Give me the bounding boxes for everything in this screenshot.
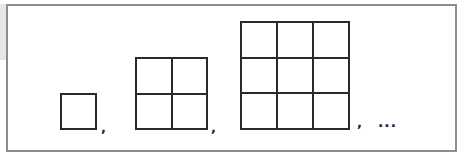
comma-separator: , <box>211 121 216 134</box>
comma-separator: , <box>101 121 106 134</box>
grid-cell <box>278 59 312 93</box>
grid-cell <box>314 23 348 57</box>
grid-cell <box>278 23 312 57</box>
grid-cell <box>242 23 276 57</box>
grid-cell <box>173 59 207 93</box>
grid-cell <box>314 59 348 93</box>
grid-cell <box>173 95 207 129</box>
grid-cell <box>137 59 171 93</box>
grid-cell <box>278 94 312 128</box>
grid-cell <box>62 95 95 128</box>
grid-cell <box>137 95 171 129</box>
grid-1x1 <box>60 93 97 130</box>
grid-cell <box>242 94 276 128</box>
grid-2x2 <box>135 57 208 130</box>
continuation-ellipsis: ... <box>378 115 397 129</box>
grid-3x3 <box>240 21 350 130</box>
grid-cell <box>314 94 348 128</box>
grid-cell <box>242 59 276 93</box>
comma-separator: , <box>357 116 362 129</box>
